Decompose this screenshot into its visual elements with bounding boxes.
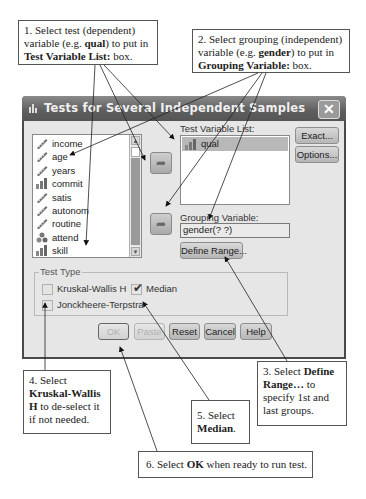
callout-text: 1. Select test (dependent) (24, 24, 135, 36)
ruler-icon (36, 218, 48, 229)
bar-chart-icon (36, 178, 48, 189)
arrow-right-icon: ➦ (156, 156, 166, 170)
callout-text: box. (110, 50, 132, 62)
arrow-right-icon: ➦ (156, 217, 166, 231)
scroll-track[interactable] (131, 158, 140, 245)
callout-text: box. (290, 59, 312, 71)
callout-text: if not needed. (29, 413, 89, 425)
callout-bold-text: Range… (263, 378, 304, 390)
kruskal-wallis-label[interactable]: Kruskal-Wallis H (57, 283, 126, 294)
jonckheere-terpstra-label[interactable]: Jonckheere-Terpstra (57, 299, 144, 310)
close-icon: ✕ (323, 101, 335, 117)
callout-bold-text: Median (197, 422, 233, 434)
callout-text: ) to put in (105, 37, 148, 49)
spss-app-icon (28, 102, 40, 114)
callout-bold-text: H (29, 400, 38, 412)
source-variable-name: years (52, 165, 75, 176)
scroll-down-arrow[interactable]: ▼ (131, 247, 140, 256)
scroll-thumb[interactable] (131, 147, 140, 157)
test-variable-list[interactable]: qual (180, 135, 290, 205)
source-variable-autonom[interactable]: autonom (36, 204, 89, 217)
callout-step-6: 6. Select OK when ready to run test. (138, 451, 313, 478)
nominal-icon (36, 232, 48, 243)
test-variable-list-label: Test Variable List: (180, 123, 254, 134)
callout-text: 5. Select (197, 409, 235, 421)
ok-button[interactable]: OK (98, 323, 129, 340)
source-variable-name: satis (52, 192, 72, 203)
callout-bold-text: Test Variable List: (24, 50, 110, 62)
test-type-legend: Test Type (39, 266, 82, 277)
callout-text: when ready to run test. (204, 458, 307, 470)
source-variable-commit[interactable]: commit (36, 177, 83, 190)
exact-button[interactable]: Exact... (295, 127, 339, 144)
source-variable-name: age (52, 151, 68, 162)
source-variable-name: commit (52, 178, 83, 189)
test-type-group: Test Type Kruskal-Wallis H Median Jonckh… (34, 272, 288, 316)
source-variable-age[interactable]: age (36, 150, 68, 163)
callout-text: 3. Select (263, 365, 304, 377)
callout-step-3: 3. Select Define Range… to specify 1st a… (257, 361, 347, 426)
callout-text: to (304, 378, 315, 390)
grouping-variable-label: Grouping Variable: (180, 212, 259, 223)
callout-step-1: 1. Select test (dependent) variable (e.g… (18, 20, 158, 65)
source-variable-name: skill (52, 245, 68, 256)
callout-text: to de-select it (38, 400, 100, 412)
paste-button[interactable]: Paste (134, 323, 165, 340)
bar-chart-icon (36, 245, 48, 256)
callout-text: 6. Select (146, 458, 187, 470)
help-button[interactable]: Help (240, 323, 272, 340)
scroll-up-arrow[interactable]: ▲ (131, 136, 140, 145)
source-variable-skill[interactable]: skill (36, 244, 68, 257)
callout-text: variable (e.g. (198, 46, 258, 58)
callout-bold-text: OK (187, 458, 204, 470)
callout-text: variable (e.g. (24, 37, 84, 49)
source-variable-satis[interactable]: satis (36, 191, 72, 204)
callout-bold-text: Grouping Variable: (198, 59, 290, 71)
options-button[interactable]: Options... (295, 146, 339, 163)
ruler-icon (36, 138, 48, 149)
source-variable-name: routine (52, 218, 81, 229)
cancel-button[interactable]: Cancel (204, 323, 236, 340)
test-variable-row-qual[interactable]: qual (182, 137, 288, 151)
source-variable-years[interactable]: years (36, 164, 75, 177)
grouping-variable-field[interactable]: gender(? ?) (180, 223, 290, 238)
callout-text: 2. Select grouping (independent) (198, 33, 342, 45)
ruler-icon (36, 205, 48, 216)
median-label[interactable]: Median (146, 283, 177, 294)
ruler-icon (36, 165, 48, 176)
dialog-title: Tests for Several Independent Samples (44, 101, 305, 115)
bar-chart-icon (185, 138, 197, 150)
callout-step-5: 5. Select Median. (191, 400, 250, 444)
reset-button[interactable]: Reset (169, 323, 200, 340)
tests-several-independent-samples-dialog: Tests for Several Independent Samples ✕ … (22, 96, 346, 359)
source-variable-income[interactable]: income (36, 137, 83, 150)
source-variable-attend[interactable]: attend (36, 231, 78, 244)
callout-text: 4. Select (29, 374, 67, 386)
source-variable-name: income (52, 138, 83, 149)
median-checkbox[interactable] (131, 284, 142, 295)
source-variable-name: autonom (52, 205, 89, 216)
ruler-icon (36, 151, 48, 162)
callout-text: . (233, 422, 236, 434)
source-variable-name: attend (52, 232, 78, 243)
jonckheere-terpstra-checkbox[interactable] (42, 300, 53, 311)
move-to-grouping-button[interactable]: ➦ (150, 213, 172, 235)
test-variable-name: qual (201, 138, 219, 149)
define-range-button[interactable]: Define Range... (180, 242, 243, 259)
callout-bold-text: Define (304, 365, 335, 377)
source-variable-routine[interactable]: routine (36, 217, 81, 230)
move-to-test-list-button[interactable]: ➦ (150, 152, 172, 174)
source-variable-list[interactable]: incomeageyearscommitsatisautonomroutinea… (32, 134, 142, 258)
ruler-icon (36, 192, 48, 203)
callout-text: specify 1st and (263, 391, 329, 403)
callout-step-2: 2. Select grouping (independent) variabl… (192, 29, 350, 73)
callout-bold-text: gender (258, 46, 290, 58)
source-list-scrollbar[interactable]: ▲ ▼ (129, 135, 141, 257)
callout-text: ) to put in (291, 46, 334, 58)
callout-bold-text: Kruskal-Wallis (29, 387, 101, 399)
callout-text: last groups. (263, 404, 314, 416)
callout-step-4: 4. Select Kruskal-Wallis H to de-select … (23, 370, 111, 434)
close-button[interactable]: ✕ (318, 100, 340, 119)
title-bar[interactable]: Tests for Several Independent Samples ✕ (22, 96, 346, 121)
kruskal-wallis-checkbox[interactable] (42, 284, 53, 295)
